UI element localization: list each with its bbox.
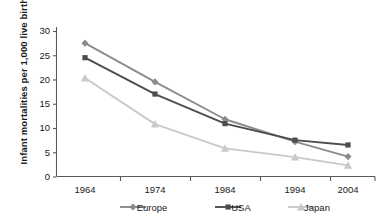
data-series-layer bbox=[81, 40, 352, 169]
x-tick-label: 1984 bbox=[214, 184, 235, 195]
y-tick-label: 10 bbox=[39, 122, 50, 133]
data-point-marker bbox=[222, 121, 227, 126]
data-point-marker bbox=[345, 142, 350, 147]
series-usa bbox=[82, 55, 350, 148]
x-axis-tick-marks bbox=[121, 177, 376, 182]
legend-label: Europe bbox=[137, 202, 168, 213]
x-tick-label: 1964 bbox=[74, 184, 95, 195]
y-tick-label: 20 bbox=[39, 74, 50, 85]
data-point-marker bbox=[82, 55, 87, 60]
series-line bbox=[85, 43, 348, 156]
y-tick-label: 15 bbox=[39, 98, 50, 109]
data-point-marker bbox=[81, 40, 88, 47]
legend-label: USA bbox=[231, 202, 251, 213]
data-point-marker bbox=[129, 203, 136, 210]
data-point-marker bbox=[225, 204, 230, 209]
data-point-marker bbox=[81, 74, 89, 82]
chart-legend: EuropeUSAJapan bbox=[120, 202, 330, 213]
y-tick-label: 0 bbox=[45, 171, 50, 182]
infant-mortality-line-chart: Infant mortalities per 1,000 live births… bbox=[0, 0, 386, 224]
series-line bbox=[85, 78, 348, 165]
chart-plot-area: 051015202530 19641974198419942004 Europe… bbox=[0, 0, 386, 224]
x-axis-tick-labels: 19641974198419942004 bbox=[74, 184, 358, 195]
y-tick-label: 25 bbox=[39, 50, 50, 61]
data-point-marker bbox=[152, 91, 157, 96]
y-axis-tick-labels: 051015202530 bbox=[39, 25, 50, 182]
data-point-marker bbox=[292, 138, 297, 143]
data-point-marker bbox=[344, 153, 351, 160]
x-tick-label: 1974 bbox=[144, 184, 165, 195]
y-tick-label: 5 bbox=[45, 147, 50, 158]
series-japan bbox=[81, 74, 352, 169]
y-tick-label: 30 bbox=[39, 25, 50, 36]
data-point-marker bbox=[151, 78, 158, 85]
x-tick-label: 1994 bbox=[284, 184, 305, 195]
legend-item-europe[interactable]: Europe bbox=[120, 202, 167, 213]
legend-label: Japan bbox=[304, 202, 330, 213]
legend-item-usa[interactable]: USA bbox=[215, 202, 251, 213]
series-line bbox=[85, 58, 348, 145]
legend-item-japan[interactable]: Japan bbox=[288, 202, 330, 213]
x-tick-label: 2004 bbox=[337, 184, 358, 195]
